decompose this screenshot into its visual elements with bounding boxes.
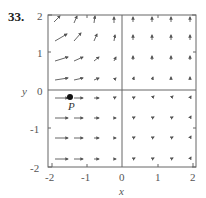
x-tick-neg1: -1 xyxy=(81,171,90,183)
y-tick-neg2: -2 xyxy=(30,162,39,174)
x-axis-label: x xyxy=(118,185,124,197)
x-tick-1: 1 xyxy=(155,171,161,183)
vector-field-plot: 2 1 0 -1 -2 y -2 -1 0 1 2 x xyxy=(0,0,206,198)
y-tick-0: 0 xyxy=(37,85,43,97)
y-axis-label: y xyxy=(21,85,27,97)
y-tick-2: 2 xyxy=(37,10,43,22)
x-tick-2: 2 xyxy=(190,171,196,183)
point-p-label: P xyxy=(67,100,75,112)
x-tick-0: 0 xyxy=(119,171,125,183)
x-tick-neg2: -2 xyxy=(45,171,54,183)
y-tick-neg1: -1 xyxy=(30,123,39,135)
y-tick-1: 1 xyxy=(37,47,43,59)
